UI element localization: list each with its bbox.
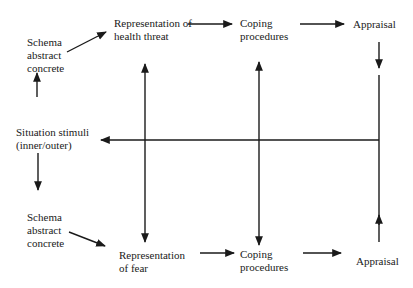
arrow-schema-to-fear [69, 232, 105, 246]
node-schema-bottom: Schema abstract concrete [27, 211, 64, 250]
arrow-schema-to-health-threat [67, 32, 106, 52]
node-coping-bottom: Coping procedures [240, 248, 288, 274]
node-appraisal-bottom: Appraisal [356, 255, 399, 268]
node-coping-top: Coping procedures [240, 17, 288, 43]
node-appraisal-top: Appraisal [353, 18, 396, 31]
node-representation-health-threat: Representation of health threat [114, 17, 192, 43]
node-situation-stimuli: Situation stimuli (inner/outer) [16, 126, 89, 152]
node-schema-top: Schema abstract concrete [27, 36, 64, 75]
node-representation-fear: Representation of fear [119, 249, 185, 275]
